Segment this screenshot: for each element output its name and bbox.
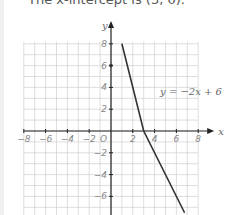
- svg-text:−6: −6: [94, 191, 108, 201]
- svg-text:−2: −2: [83, 134, 97, 144]
- svg-text:4: 4: [152, 134, 158, 144]
- svg-text:y: y: [101, 20, 108, 31]
- svg-text:6: 6: [101, 61, 107, 71]
- axes: [24, 21, 214, 215]
- svg-text:8: 8: [195, 134, 201, 144]
- svg-text:−4: −4: [94, 170, 108, 180]
- svg-text:−8: −8: [17, 134, 31, 144]
- tick-labels: xy−8−6−4−224688642−2−4−6Oy = −2x + 6: [17, 20, 224, 201]
- svg-text:2: 2: [101, 104, 107, 114]
- svg-text:x: x: [218, 126, 224, 137]
- svg-text:2: 2: [130, 134, 136, 144]
- svg-text:y = −2x + 6: y = −2x + 6: [159, 86, 223, 97]
- svg-text:6: 6: [174, 134, 180, 144]
- svg-text:O: O: [100, 134, 107, 144]
- svg-text:−6: −6: [39, 134, 53, 144]
- svg-text:4: 4: [101, 82, 107, 92]
- svg-text:−4: −4: [61, 134, 75, 144]
- plotted-line: [109, 44, 184, 213]
- svg-text:−2: −2: [94, 148, 108, 158]
- svg-text:8: 8: [101, 39, 107, 49]
- graph: xy−8−6−4−224688642−2−4−6Oy = −2x + 6: [0, 0, 228, 215]
